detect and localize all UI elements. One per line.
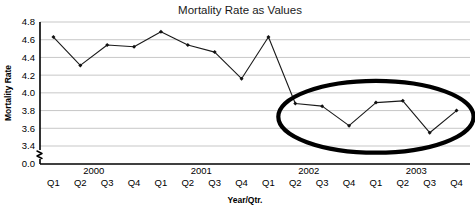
chart-container: Mortality Rate as Values 4.84.64.44.24.0… [0,0,475,216]
x-tick-label: Q2 [396,177,409,188]
x-tick-label: Q4 [235,177,248,188]
x-year-label: 2001 [191,165,212,176]
mortality-rate-line-chart: Mortality Rate as Values 4.84.64.44.24.0… [0,0,475,216]
x-tick-label: Q2 [289,177,302,188]
x-year-label: 2003 [406,165,427,176]
y-tick-label: 3.4 [22,140,35,151]
x-year-label: 2000 [83,165,104,176]
x-axis-title: Year/Qtr. [228,195,263,205]
y-tick-label: 4.0 [22,87,35,98]
x-tick-label: Q1 [155,177,168,188]
y-tick-label: 4.6 [22,34,35,45]
x-tick-label: Q2 [74,177,87,188]
x-tick-label: Q1 [262,177,275,188]
y-tick-label: 0.0 [22,158,35,169]
chart-title: Mortality Rate as Values [178,4,302,16]
x-tick-label: Q3 [423,177,436,188]
x-tick-label: Q4 [450,177,463,188]
x-tick-label: Q1 [370,177,383,188]
x-tick-label: Q2 [181,177,194,188]
y-tick-label: 4.2 [22,70,35,81]
x-tick-label: Q1 [47,177,60,188]
x-tick-label: Q3 [316,177,329,188]
y-tick-label: 4.8 [22,16,35,27]
x-tick-label: Q4 [343,177,356,188]
y-tick-label: 3.8 [22,105,35,116]
y-tick-label: 3.6 [22,123,35,134]
x-tick-label: Q3 [101,177,114,188]
x-tick-label: Q4 [128,177,141,188]
y-axis-tick-labels: 4.84.64.44.24.03.83.63.40.0 [22,16,35,169]
x-tick-label: Q3 [208,177,221,188]
y-axis-title: Mortality Rate [3,65,13,121]
x-year-label: 2002 [298,165,319,176]
y-tick-label: 4.4 [22,52,35,63]
